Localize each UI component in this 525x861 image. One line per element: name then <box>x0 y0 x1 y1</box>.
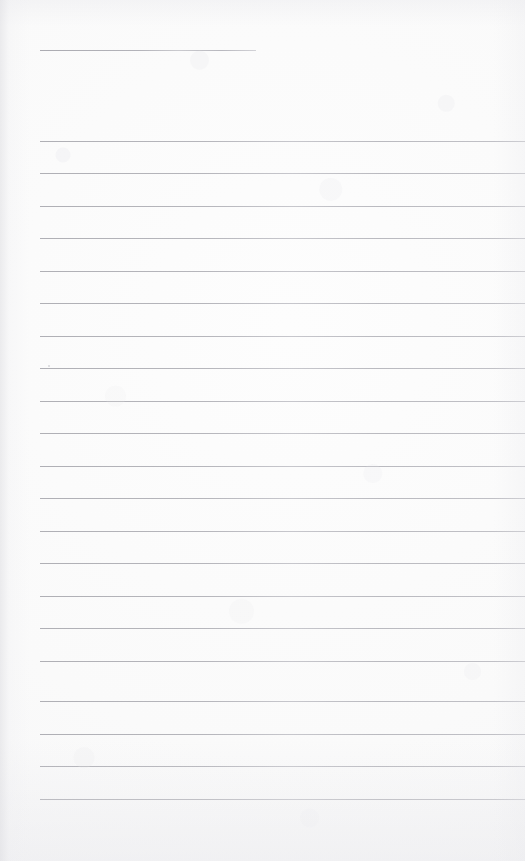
ruled-line <box>40 799 525 800</box>
ruled-line <box>40 303 525 304</box>
ruled-line <box>40 141 525 142</box>
ruled-line <box>40 336 525 337</box>
ruled-line <box>40 271 525 272</box>
ruled-line <box>40 531 525 532</box>
ruled-line <box>40 661 525 662</box>
ruled-line <box>40 596 525 597</box>
ruled-line <box>40 368 525 369</box>
ruled-line <box>40 734 525 735</box>
paper-background <box>0 0 525 861</box>
ruled-line <box>40 433 525 434</box>
ruled-line <box>40 50 256 51</box>
ruled-line <box>40 173 525 174</box>
scanned-page <box>0 0 525 861</box>
ruled-line <box>40 628 525 629</box>
ruled-line <box>40 238 525 239</box>
ruled-line <box>40 563 525 564</box>
ruled-line <box>40 498 525 499</box>
ruled-line <box>40 206 525 207</box>
ruled-line <box>40 701 525 702</box>
ruled-line <box>40 766 525 767</box>
ruled-line <box>40 466 525 467</box>
ruled-line <box>40 401 525 402</box>
stray-mark <box>48 365 50 367</box>
